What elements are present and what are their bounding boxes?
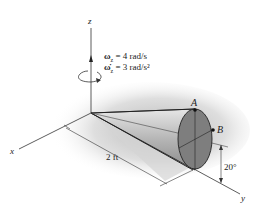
point-a-label: A (191, 98, 197, 108)
angle-label: 20° (224, 163, 237, 172)
x-axis-label: x (10, 147, 14, 156)
length-label: 2 ft (106, 153, 118, 162)
omega-symbol: ω (104, 51, 111, 61)
z-axis-arrow-icon (89, 55, 93, 62)
z-axis-label: z (88, 17, 92, 26)
diagram-graphics (0, 0, 256, 219)
angle-arrow-bottom-icon (219, 178, 223, 183)
point-a-marker (193, 108, 197, 112)
point-b-label: B (217, 125, 223, 135)
point-b-marker (211, 128, 215, 132)
cone-rotation-diagram: z x y ωz = 4 rad/s ω̇z = 3 rad/s² A B 2 … (0, 0, 256, 219)
omega-value: = 4 rad/s (113, 51, 147, 61)
y-axis-label: y (241, 194, 245, 203)
angular-acceleration-label: ω̇z = 3 rad/s² (104, 63, 150, 74)
omega-dot-symbol: ω̇ (104, 62, 111, 72)
omega-dot-value: = 3 rad/s² (113, 62, 150, 72)
